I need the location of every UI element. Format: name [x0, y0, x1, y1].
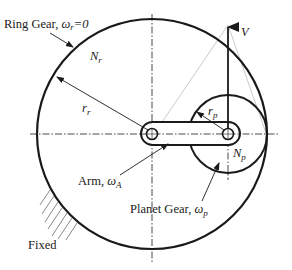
ring-gear-leader [50, 33, 73, 47]
arm-leader [120, 144, 168, 175]
arm-label: Arm, ωA [78, 174, 122, 190]
planet-teeth-label: Np [232, 146, 246, 162]
ring-teeth-label: Nr [89, 49, 102, 65]
planetary-gear-diagram: Ring Gear, ωr=0 Nr rr V rp Np Arm, ωA Pl… [0, 0, 292, 270]
planet-radius-label: rp [208, 104, 218, 120]
ring-gear-label: Ring Gear, ωr=0 [4, 17, 89, 32]
velocity-label: V [241, 25, 250, 39]
planet-gear-label: Planet Gear, ωp [130, 202, 208, 218]
ring-radius-label: rr [82, 101, 91, 117]
fixed-label: Fixed [28, 238, 57, 252]
ring-radius-arrow [57, 77, 148, 130]
